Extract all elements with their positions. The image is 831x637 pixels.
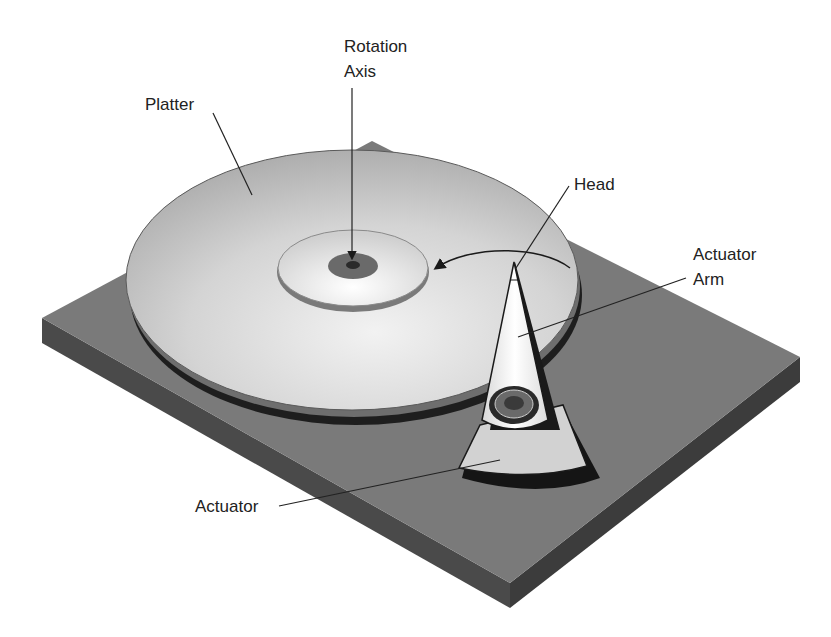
rotation-axis-label-line1: Rotation [344,37,407,56]
actuator-arm-label-line1: Actuator [693,245,757,264]
platter-label: Platter [145,95,194,114]
rotation-axis-label-line2: Axis [344,62,376,81]
head-label: Head [574,175,615,194]
actuator-arm-label-line2: Arm [693,270,724,289]
hard-disk-diagram: Rotation Axis Platter Head Actuator Arm … [0,0,831,637]
actuator-label: Actuator [195,497,259,516]
hub [277,230,429,312]
pivot-bearing-inner [504,396,524,410]
spindle-inner [346,261,360,269]
